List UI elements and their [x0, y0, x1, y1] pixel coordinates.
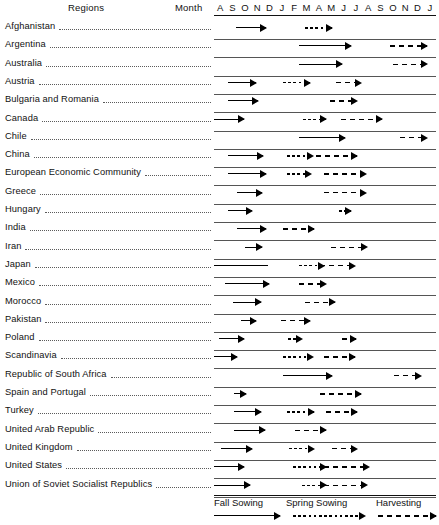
- leader-dots: [31, 139, 211, 141]
- month-tick-label: J: [338, 2, 350, 13]
- arrow-head-icon: [326, 24, 333, 32]
- month-tick-label: M: [325, 2, 337, 13]
- arrow-head-icon: [355, 79, 362, 87]
- leader-dots: [25, 249, 211, 251]
- legend-divider: [214, 495, 436, 496]
- leader-dots: [38, 413, 211, 415]
- month-tick-label: J: [276, 2, 288, 13]
- arrow-head-icon: [320, 115, 327, 123]
- month-tick-label: A: [214, 2, 226, 13]
- month-axis-rule: [214, 15, 436, 16]
- arrow-head-icon: [350, 335, 357, 343]
- legend-label: Fall Sowing: [214, 497, 263, 508]
- region-name: Scandinavia: [5, 350, 57, 360]
- month-tick-label: D: [412, 2, 424, 13]
- arrow-head-icon: [349, 262, 356, 270]
- arrow-head-icon: [307, 152, 314, 160]
- arrow-head-icon: [296, 335, 303, 343]
- arrow-head-icon: [240, 390, 247, 398]
- month-tick-label: M: [301, 2, 313, 13]
- region-name: Australia: [5, 58, 42, 68]
- region-name: Pakistan: [5, 314, 41, 324]
- arrow-head-icon: [359, 512, 366, 520]
- month-axis: ASONDJFMAMJJASONDJ: [214, 2, 436, 16]
- leader-dots: [35, 267, 211, 269]
- region-name: Turkey: [5, 405, 34, 415]
- leader-dots: [39, 84, 211, 86]
- region-name: Chile: [5, 131, 27, 141]
- month-tick-label: A: [362, 2, 374, 13]
- region-name: United Kingdom: [5, 442, 73, 452]
- leader-dots: [61, 358, 211, 360]
- arrow-head-icon: [355, 390, 362, 398]
- leader-dots: [66, 468, 211, 470]
- month-tick-label: N: [251, 2, 263, 13]
- region-name: Spain and Portugal: [5, 387, 86, 397]
- arrow-head-icon: [260, 225, 267, 233]
- leader-dots: [42, 121, 211, 123]
- leader-dots: [59, 29, 211, 31]
- month-tick-label: O: [239, 2, 251, 13]
- region-name: Greece: [5, 186, 36, 196]
- arrow-head-icon: [256, 189, 263, 197]
- row-track: [214, 476, 436, 497]
- leader-dots: [50, 47, 211, 49]
- arrow-head-icon: [421, 60, 428, 68]
- arrow-shaft: [283, 375, 332, 376]
- arrow-head-icon: [250, 79, 257, 87]
- arrow-head-icon: [320, 426, 327, 434]
- leader-dots: [40, 194, 211, 196]
- month-tick-label: S: [375, 2, 387, 13]
- region-name: Austria: [5, 76, 35, 86]
- region-name: Republic of South Africa: [5, 369, 107, 379]
- arrow-head-icon: [320, 280, 327, 288]
- arrow-head-icon: [263, 280, 270, 288]
- arrow-head-icon: [259, 426, 266, 434]
- arrow-head-icon: [361, 243, 368, 251]
- sowing-harvest-calendar: Regions Month ASONDJFMAMJJASONDJ Afghani…: [0, 0, 439, 525]
- arrow-head-icon: [421, 134, 428, 142]
- leader-dots: [39, 340, 211, 342]
- region-name: Bulgaria and Romania: [5, 94, 99, 104]
- arrow-shaft: [299, 45, 351, 46]
- regions-column-header: Regions: [68, 2, 104, 13]
- region-name: Mexico: [5, 277, 35, 287]
- region-name: China: [5, 149, 30, 159]
- region-name: Afghanistan: [5, 21, 55, 31]
- arrow-head-icon: [260, 170, 267, 178]
- month-tick-label: O: [387, 2, 399, 13]
- arrow-head-icon: [376, 115, 383, 123]
- arrow-shaft: [378, 515, 436, 517]
- month-column-header: Month: [175, 2, 202, 13]
- arrow-head-icon: [351, 97, 358, 105]
- arrow-head-icon: [308, 408, 315, 416]
- region-name: Argentina: [5, 39, 46, 49]
- region-name: Morocco: [5, 296, 41, 306]
- arrow-head-icon: [238, 115, 245, 123]
- arrow-head-icon: [274, 512, 281, 520]
- region-name: Japan: [5, 259, 31, 269]
- arrow-head-icon: [351, 152, 358, 160]
- leader-dots: [77, 450, 211, 452]
- arrow-head-icon: [345, 42, 352, 50]
- arrow-head-icon: [339, 134, 346, 142]
- arrow-head-icon: [360, 189, 367, 197]
- region-name: United Arab Republic: [5, 424, 94, 434]
- arrow-head-icon: [244, 481, 251, 489]
- region-name: Canada: [5, 113, 38, 123]
- leader-dots: [30, 230, 211, 232]
- month-tick-label: J: [424, 2, 436, 13]
- arrow-head-icon: [336, 60, 343, 68]
- arrow-shaft: [214, 265, 268, 266]
- region-name: Hungary: [5, 204, 41, 214]
- leader-dots: [45, 304, 211, 306]
- arrow-head-icon: [308, 445, 315, 453]
- arrow-head-icon: [238, 463, 245, 471]
- leader-dots: [39, 285, 211, 287]
- arrow-head-icon: [252, 97, 259, 105]
- leader-dots: [156, 487, 211, 489]
- month-tick-label: D: [264, 2, 276, 13]
- arrow-head-icon: [351, 445, 358, 453]
- month-tick-label: N: [399, 2, 411, 13]
- month-tick-label: A: [313, 2, 325, 13]
